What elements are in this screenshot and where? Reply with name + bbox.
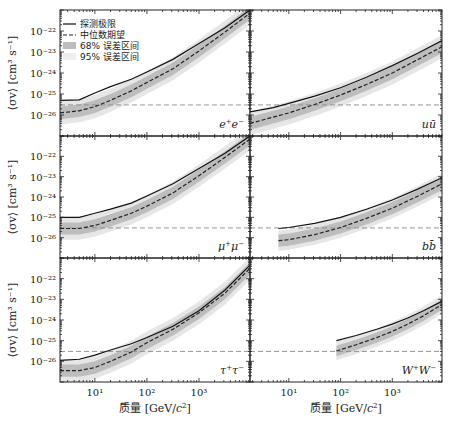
y-tick-label: 10⁻²⁴ [30, 192, 56, 203]
legend-band68-swatch [63, 42, 76, 49]
legend-band95-label: 95% 误差区间 [80, 51, 139, 62]
panel-2: μ+μ− [60, 128, 250, 258]
y-tick-label: 10⁻²³ [30, 172, 56, 183]
y-axis-labels: 10⁻²²10⁻²³10⁻²⁴10⁻²⁵10⁻²⁶⟨σv⟩ [cm³ s⁻¹]1… [6, 26, 56, 367]
legend: 探测极限 中位数期望 68% 误差区间 95% 误差区间 [63, 18, 139, 62]
y-tick-label: 10⁻²⁶ [30, 110, 56, 121]
y-tick-label: 10⁻²⁵ [30, 89, 56, 100]
y-tick-label: 10⁻²² [30, 274, 56, 285]
channel-label: uū [422, 118, 436, 131]
y-tick-label: 10⁻²² [30, 151, 56, 162]
y-tick-label: 10⁻²⁶ [30, 233, 56, 244]
legend-band68-label: 68% 误差区间 [80, 40, 139, 51]
x-tick-label: 10¹ [280, 387, 297, 398]
y-tick-label: 10⁻²⁶ [30, 356, 56, 367]
y-tick-label: 10⁻²³ [30, 47, 56, 58]
y-tick-label: 10⁻²⁵ [30, 336, 56, 347]
x-tick-label: 10¹ [87, 387, 104, 398]
panel-1: uū [250, 10, 442, 136]
y-tick-label: 10⁻²³ [30, 294, 56, 305]
x-tick-label: 10² [139, 387, 156, 398]
y-axis-label: ⟨σv⟩ [cm³ s⁻¹] [6, 160, 19, 235]
expected-line [60, 268, 250, 370]
legend-expected-label: 中位数期望 [80, 29, 125, 40]
y-tick-label: 10⁻²² [30, 26, 56, 37]
channel-label: e+e− [219, 118, 244, 131]
x-axis-label: 质量 [GeV/c2] [310, 402, 382, 415]
y-tick-label: 10⁻²⁴ [30, 315, 56, 326]
panel-4: τ+τ− [60, 257, 250, 382]
x-axis-labels: 10¹10²10³质量 [GeV/c2]10¹10²10³质量 [GeV/c2] [87, 387, 401, 415]
channel-label: μ+μ− [218, 240, 244, 253]
y-axis-label: ⟨σv⟩ [cm³ s⁻¹] [6, 36, 19, 111]
channel-label: W+W− [402, 364, 437, 377]
legend-observed-label: 探测极限 [80, 18, 116, 29]
channel-label: bb̄ [422, 240, 436, 253]
x-tick-label: 10³ [384, 387, 401, 398]
x-tick-label: 10² [332, 387, 349, 398]
y-tick-label: 10⁻²⁴ [30, 68, 56, 79]
chart-figure: e+e−uūμ+μ−bb̄τ+τ−W+W− 探测极限 中位数期望 68% 误差区… [0, 0, 450, 425]
x-tick-label: 10³ [191, 387, 208, 398]
y-tick-label: 10⁻²⁵ [30, 212, 56, 223]
panel-3: bb̄ [250, 136, 442, 258]
y-axis-label: ⟨σv⟩ [cm³ s⁻¹] [6, 283, 19, 358]
channel-label: τ+τ− [220, 364, 244, 377]
x-axis-label: 质量 [GeV/c2] [119, 402, 191, 415]
panel-5: W+W− [250, 258, 442, 382]
legend-band95-swatch [63, 53, 76, 60]
